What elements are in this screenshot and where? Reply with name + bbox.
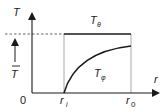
svg-text:0: 0 (131, 100, 136, 109)
r-outer-label: r 0 (126, 94, 136, 109)
temperature-diagram: T r 0 r i r 0 T θ T φ T (0, 0, 166, 112)
y-axis-label: T (13, 6, 21, 18)
svg-text:φ: φ (101, 74, 106, 82)
t-bar-label: T (11, 66, 20, 80)
t-theta-label: T θ (90, 14, 101, 28)
origin-label: 0 (20, 94, 26, 106)
t-phi-label: T φ (94, 67, 106, 82)
svg-text:i: i (66, 101, 68, 108)
r-inner-label: r i (60, 94, 68, 108)
svg-text:T: T (11, 68, 19, 80)
x-axis-label: r (154, 73, 159, 85)
svg-text:θ: θ (97, 21, 101, 28)
svg-text:r: r (60, 94, 65, 106)
